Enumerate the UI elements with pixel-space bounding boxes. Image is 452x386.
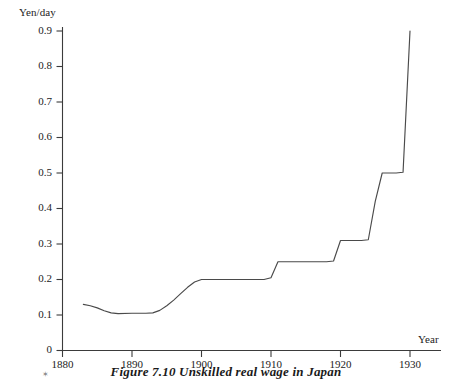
y-tick-label-0.4: 0.4 <box>18 201 52 213</box>
y-tick-label-0.1: 0.1 <box>18 308 52 320</box>
y-tick-label-0.9: 0.9 <box>18 24 52 36</box>
y-tick-label-0.7: 0.7 <box>18 95 52 107</box>
y-tick-label-0: 0 <box>18 343 52 355</box>
y-axis-title: Yen/day <box>19 6 56 18</box>
y-tick-label-0.2: 0.2 <box>18 272 52 284</box>
x-axis-title: Year <box>418 333 439 345</box>
line-chart-plot <box>0 0 452 386</box>
chart-figure: Yen/day Year 0 0.1 0.2 0.3 0.4 0.5 0.6 0… <box>0 0 452 386</box>
y-tick-label-0.3: 0.3 <box>18 237 52 249</box>
figure-caption: Figure 7.10 Unskilled real wage in Japan <box>0 364 452 380</box>
y-tick-label-0.5: 0.5 <box>18 166 52 178</box>
scan-speck-mark: ✶ <box>42 372 47 377</box>
figure-page: Yen/day Year 0 0.1 0.2 0.3 0.4 0.5 0.6 0… <box>0 0 452 386</box>
plot-background <box>0 0 452 386</box>
y-tick-label-0.6: 0.6 <box>18 130 52 142</box>
y-tick-label-0.8: 0.8 <box>18 59 52 71</box>
